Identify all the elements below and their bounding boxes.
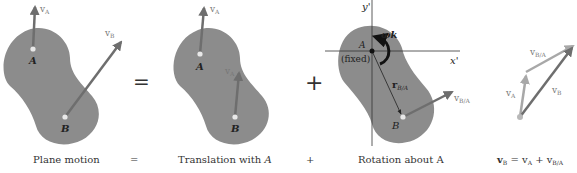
label-vB: vB — [551, 85, 562, 96]
caption-velocity-equation: vB = vA + vB/A — [496, 154, 564, 166]
rigid-body-shape — [174, 28, 269, 144]
label-vBA: vB/A — [453, 93, 471, 104]
panel-plane-motion: A B vA vB — [4, 4, 121, 144]
label-A: A — [28, 55, 37, 66]
point-B — [232, 114, 237, 119]
panel-translation: A B vA vA — [174, 4, 269, 144]
plane-motion-diagram: A B vA vB = A B vA vA + y' x' ωk rB/A vB… — [0, 0, 577, 173]
point-A — [197, 51, 202, 56]
equals-operator: = — [133, 69, 150, 93]
label-x-axis: x' — [450, 55, 458, 66]
label-vBA: vB/A — [529, 47, 547, 58]
label-B: B — [391, 120, 399, 131]
label-fixed: (fixed) — [341, 54, 370, 64]
label-y-axis: y' — [361, 1, 370, 12]
point-B — [400, 114, 405, 119]
rigid-body-shape — [4, 28, 99, 144]
origin-point — [517, 114, 523, 120]
label-omega-k: ωk — [381, 29, 398, 40]
caption-rotation: Rotation about A — [358, 154, 444, 165]
panel-vector-sum: vA vB vB/A — [505, 46, 573, 120]
caption-plane-motion: Plane motion — [33, 154, 100, 165]
panel-rotation: y' x' ωk rB/A vB/A A (fixed) B — [325, 0, 471, 146]
caption-plus: + — [306, 154, 314, 165]
label-A: A — [195, 61, 204, 72]
point-A — [30, 46, 35, 51]
label-B: B — [230, 123, 239, 134]
vector-vB — [520, 48, 572, 117]
label-vB: vB — [104, 28, 115, 39]
point-A-fixed — [370, 49, 375, 54]
label-B: B — [60, 123, 69, 134]
plus-operator: + — [305, 70, 323, 95]
label-vA: vA — [505, 88, 516, 99]
caption-equals: = — [130, 154, 138, 165]
caption-translation: Translation with A — [178, 154, 272, 165]
point-B — [62, 114, 67, 119]
label-A: A — [358, 40, 366, 50]
label-vA: vA — [209, 4, 220, 15]
label-vA: vA — [39, 4, 50, 15]
